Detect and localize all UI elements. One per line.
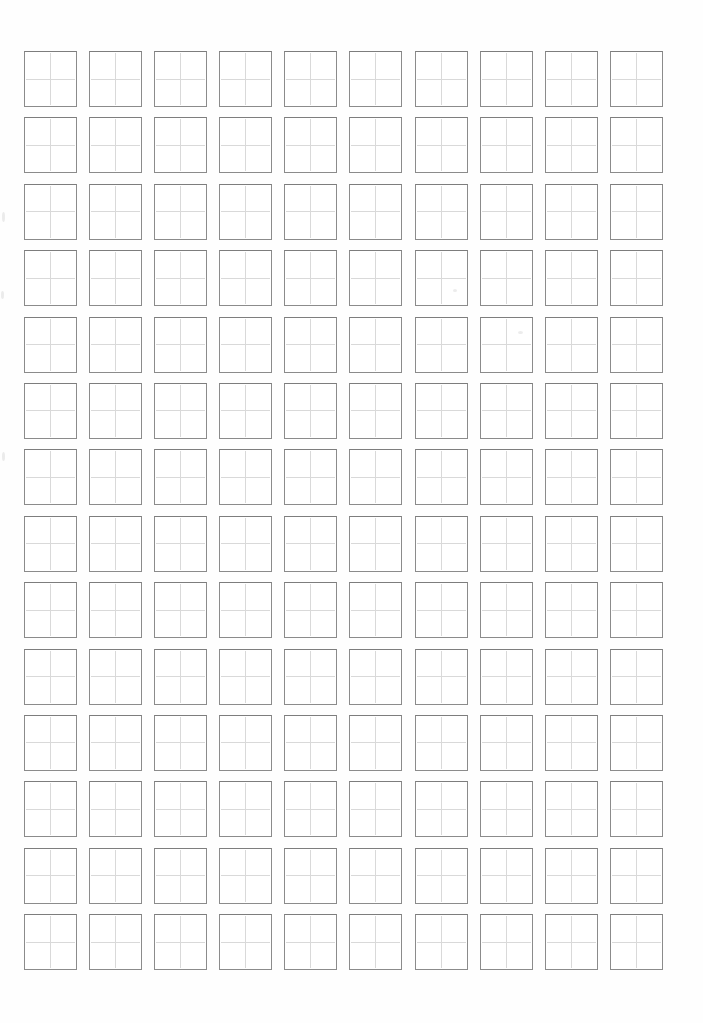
practice-cell <box>89 317 142 373</box>
practice-cell <box>610 449 663 505</box>
practice-cell <box>415 848 468 904</box>
practice-cell <box>480 51 533 107</box>
horizontal-guide-line <box>612 410 661 411</box>
practice-cell <box>24 715 77 771</box>
horizontal-guide-line <box>482 676 531 677</box>
horizontal-guide-line <box>612 79 661 80</box>
practice-cell <box>284 317 337 373</box>
horizontal-guide-line <box>156 211 205 212</box>
horizontal-guide-line <box>612 742 661 743</box>
practice-cell <box>480 250 533 306</box>
horizontal-guide-line <box>91 344 140 345</box>
horizontal-guide-line <box>417 610 466 611</box>
horizontal-guide-line <box>612 344 661 345</box>
horizontal-guide-line <box>547 477 596 478</box>
practice-cell <box>284 914 337 970</box>
horizontal-guide-line <box>547 875 596 876</box>
practice-cell <box>545 516 598 572</box>
practice-cell <box>89 184 142 240</box>
horizontal-guide-line <box>482 742 531 743</box>
horizontal-guide-line <box>91 543 140 544</box>
horizontal-guide-line <box>482 410 531 411</box>
practice-cell <box>24 449 77 505</box>
practice-cell <box>89 51 142 107</box>
horizontal-guide-line <box>482 477 531 478</box>
practice-cell <box>24 649 77 705</box>
horizontal-guide-line <box>221 676 270 677</box>
horizontal-guide-line <box>156 875 205 876</box>
practice-cell <box>24 781 77 837</box>
practice-cell <box>349 383 402 439</box>
practice-cell <box>480 117 533 173</box>
practice-cell <box>480 715 533 771</box>
practice-cell <box>89 582 142 638</box>
practice-cell <box>89 715 142 771</box>
horizontal-guide-line <box>26 278 75 279</box>
practice-cell <box>480 582 533 638</box>
horizontal-guide-line <box>417 543 466 544</box>
practice-cell <box>284 250 337 306</box>
practice-cell <box>89 649 142 705</box>
practice-cell <box>154 582 207 638</box>
horizontal-guide-line <box>26 875 75 876</box>
practice-cell <box>545 383 598 439</box>
practice-cell <box>284 848 337 904</box>
horizontal-guide-line <box>26 942 75 943</box>
practice-cell <box>349 449 402 505</box>
practice-cell <box>545 449 598 505</box>
horizontal-guide-line <box>286 875 335 876</box>
horizontal-guide-line <box>286 145 335 146</box>
horizontal-guide-line <box>91 477 140 478</box>
horizontal-guide-line <box>351 942 400 943</box>
horizontal-guide-line <box>351 610 400 611</box>
horizontal-guide-line <box>351 145 400 146</box>
horizontal-guide-line <box>351 809 400 810</box>
practice-cell <box>154 317 207 373</box>
horizontal-guide-line <box>612 809 661 810</box>
practice-cell <box>219 51 272 107</box>
practice-cell <box>545 914 598 970</box>
horizontal-guide-line <box>286 610 335 611</box>
practice-cell <box>284 449 337 505</box>
practice-cell <box>415 715 468 771</box>
practice-cell <box>284 649 337 705</box>
horizontal-guide-line <box>156 610 205 611</box>
horizontal-guide-line <box>286 477 335 478</box>
horizontal-guide-line <box>612 610 661 611</box>
horizontal-guide-line <box>156 676 205 677</box>
practice-cell <box>349 781 402 837</box>
horizontal-guide-line <box>286 79 335 80</box>
horizontal-guide-line <box>482 211 531 212</box>
horizontal-guide-line <box>221 79 270 80</box>
horizontal-guide-line <box>26 676 75 677</box>
practice-cell <box>545 848 598 904</box>
horizontal-guide-line <box>156 344 205 345</box>
scan-artifact <box>518 331 523 334</box>
horizontal-guide-line <box>482 79 531 80</box>
practice-cell <box>415 383 468 439</box>
practice-cell <box>545 582 598 638</box>
horizontal-guide-line <box>26 477 75 478</box>
practice-cell <box>219 184 272 240</box>
practice-cell <box>480 781 533 837</box>
horizontal-guide-line <box>547 676 596 677</box>
practice-cell <box>610 51 663 107</box>
practice-cell <box>415 449 468 505</box>
practice-cell <box>415 516 468 572</box>
practice-cell <box>349 649 402 705</box>
practice-cell <box>154 449 207 505</box>
horizontal-guide-line <box>156 477 205 478</box>
practice-cell <box>284 781 337 837</box>
horizontal-guide-line <box>351 875 400 876</box>
horizontal-guide-line <box>286 543 335 544</box>
practice-cell <box>610 516 663 572</box>
horizontal-guide-line <box>286 809 335 810</box>
practice-cell <box>284 184 337 240</box>
practice-cell <box>154 250 207 306</box>
horizontal-guide-line <box>221 211 270 212</box>
practice-cell <box>349 848 402 904</box>
practice-cell <box>545 649 598 705</box>
practice-cell <box>415 649 468 705</box>
horizontal-guide-line <box>91 676 140 677</box>
horizontal-guide-line <box>612 676 661 677</box>
